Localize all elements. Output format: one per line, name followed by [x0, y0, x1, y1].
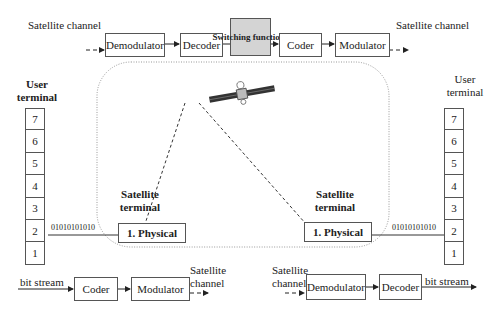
left-layer-6: 6: [25, 130, 45, 152]
bl-in-label: bit stream: [20, 276, 64, 289]
right-layer-3: 3: [444, 198, 464, 220]
br-decoder-block: Decoder: [379, 274, 422, 300]
right-layer-7: 7: [444, 108, 464, 130]
left-layer-4: 4: [25, 175, 45, 197]
top-in-label: Satellite channel: [28, 19, 88, 32]
right-layer-2: 2: [444, 220, 464, 242]
br-demodulator-block: Demodulator: [306, 274, 366, 300]
top-out-label: Satellite channel: [396, 19, 451, 32]
right-physical-layer-block: 1. Physical: [304, 222, 372, 242]
right-layer-4: 4: [444, 175, 464, 197]
br-out-label: bit stream: [425, 275, 469, 288]
left-user-terminal-title: User terminal: [12, 78, 62, 104]
top-modulator-block: Modulator: [335, 33, 390, 57]
switching-functions-block: Switching functions: [230, 18, 271, 56]
left-osi-stack: 7 6 5 4 3 2 1: [25, 108, 45, 265]
right-satellite-terminal-title: Satellite terminal: [307, 188, 363, 214]
left-layer-3: 3: [25, 198, 45, 220]
left-layer-7: 7: [25, 108, 45, 130]
right-bits-label: 01010101010: [392, 223, 436, 232]
top-coder-block: Coder: [279, 33, 322, 57]
right-user-terminal-title: User terminal: [440, 73, 490, 99]
left-layer-1: 1: [25, 242, 45, 264]
bl-coder-block: Coder: [74, 277, 118, 301]
left-layer-2: 2: [25, 220, 45, 242]
satellite-icon: [207, 76, 276, 110]
switching-functions-label: Switching functions: [213, 32, 289, 43]
bl-out-label: Satellite channel: [190, 264, 245, 290]
left-layer-5: 5: [25, 153, 45, 175]
left-satellite-terminal-title: Satellite terminal: [112, 188, 168, 214]
bl-modulator-block: Modulator: [131, 277, 190, 301]
right-layer-1: 1: [444, 242, 464, 264]
left-physical-layer-block: 1. Physical: [118, 223, 186, 243]
right-layer-5: 5: [444, 153, 464, 175]
right-osi-stack: 7 6 5 4 3 2 1: [444, 108, 464, 265]
right-beam: [199, 103, 306, 224]
right-layer-6: 6: [444, 130, 464, 152]
left-bits-label: 01010101010: [51, 223, 95, 232]
top-demodulator-block: Demodulator: [105, 33, 165, 57]
